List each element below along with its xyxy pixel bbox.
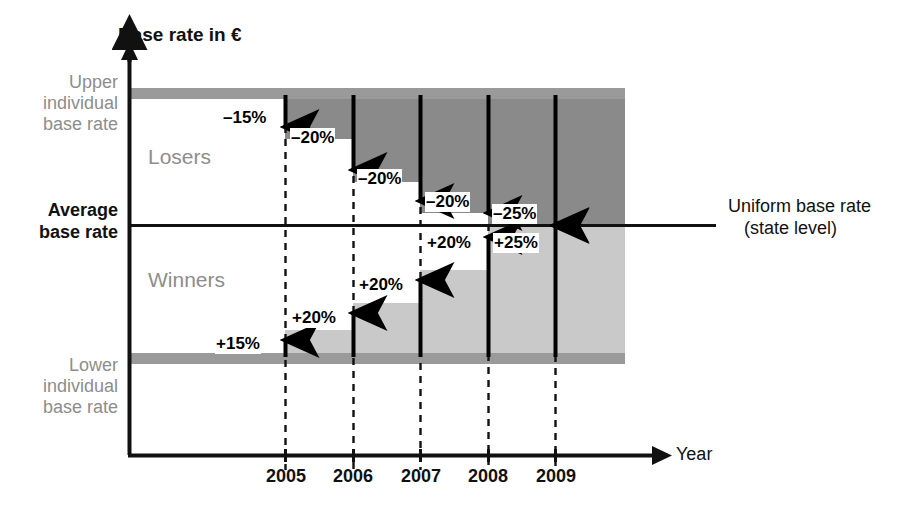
losers-pct-2006: –20% xyxy=(290,128,335,148)
lower-base-rate-label-line3: base rate xyxy=(0,397,118,418)
winners-region-label: Winners xyxy=(148,268,225,293)
upper-base-rate-band xyxy=(128,88,625,99)
upper-base-rate-label-line2: individual xyxy=(0,93,118,114)
losers-pct-2008: –20% xyxy=(425,192,470,212)
lower-base-rate-band xyxy=(128,353,625,364)
uniform-base-rate-label-line1: Uniform base rate xyxy=(728,196,871,217)
winners-pct-2006: +20% xyxy=(291,308,337,328)
winners-pct-2007: +20% xyxy=(358,275,404,295)
x-axis-title: Year xyxy=(676,444,712,465)
losers-pct-2005: –15% xyxy=(222,108,267,128)
winners-pct-2009: +25% xyxy=(493,233,539,253)
y-axis-title: Base rate in € xyxy=(118,24,242,46)
losers-pct-2007: –20% xyxy=(357,169,402,189)
lower-base-rate-label-line1: Lower xyxy=(0,355,118,376)
upper-base-rate-label-line1: Upper xyxy=(0,72,118,93)
chart-canvas: Base rate in € Year Upper individual bas… xyxy=(0,0,911,513)
losers-pct-2009: –25% xyxy=(492,204,537,224)
upper-base-rate-label-line3: base rate xyxy=(0,114,118,135)
lower-base-rate-label-line2: individual xyxy=(0,376,118,397)
average-base-rate-label-line2: base rate xyxy=(0,222,118,243)
chart-svg xyxy=(0,0,911,513)
uniform-base-rate-label-line2: (state level) xyxy=(744,218,837,239)
winners-pct-2008: +20% xyxy=(426,233,472,253)
winners-pct-2005: +15% xyxy=(215,334,261,354)
losers-region-label: Losers xyxy=(148,145,211,170)
x-axis-arrowhead xyxy=(652,446,672,465)
year-label-2009: 2009 xyxy=(516,466,596,487)
average-base-rate-label-line1: Average xyxy=(0,200,118,221)
